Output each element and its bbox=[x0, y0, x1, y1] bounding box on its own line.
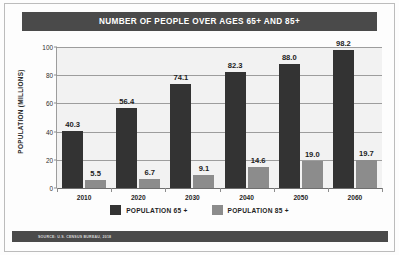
x-tick-label: 2050 bbox=[293, 194, 308, 201]
x-tick-label: 2040 bbox=[239, 194, 254, 201]
bar-group: 74.19.12030 bbox=[165, 47, 219, 188]
bar[interactable]: 6.7 bbox=[139, 179, 160, 188]
bar[interactable]: 14.6 bbox=[248, 167, 269, 188]
x-tick-mark bbox=[57, 188, 58, 192]
bar-group: 88.019.02050 bbox=[274, 47, 328, 188]
bar-value-label: 98.2 bbox=[336, 39, 351, 48]
bar[interactable]: 98.2 bbox=[333, 50, 354, 188]
y-tick-label: 40 bbox=[46, 128, 53, 135]
y-tick-label: 20 bbox=[46, 156, 53, 163]
x-tick-mark bbox=[382, 188, 383, 192]
legend-item[interactable]: POPULATION 65 + bbox=[110, 205, 187, 215]
chart-title-band: NUMBER OF PEOPLE OVER AGES 65+ AND 85+ bbox=[22, 12, 377, 31]
plot-area: 020406080100 40.35.5201056.46.7202074.19… bbox=[57, 47, 382, 188]
bar[interactable]: 9.1 bbox=[193, 175, 214, 188]
bar-group: 98.219.72060 bbox=[328, 47, 382, 188]
bar[interactable]: 19.0 bbox=[302, 161, 323, 188]
chart-title: NUMBER OF PEOPLE OVER AGES 65+ AND 85+ bbox=[99, 17, 300, 26]
y-tick-label: 0 bbox=[49, 185, 53, 192]
bar[interactable]: 74.1 bbox=[170, 84, 191, 188]
y-tick-label: 80 bbox=[46, 72, 53, 79]
bar-group-container: 40.35.5201056.46.7202074.19.1203082.314.… bbox=[57, 47, 382, 188]
source-band: SOURCE: U.S. CENSUS BUREAU, 2018 bbox=[12, 231, 388, 242]
source-note: SOURCE: U.S. CENSUS BUREAU, 2018 bbox=[38, 235, 111, 239]
bar-value-label: 19.7 bbox=[359, 149, 374, 158]
x-tick-label: 2010 bbox=[77, 194, 92, 201]
bar-value-label: 82.3 bbox=[228, 61, 243, 70]
legend-label: POPULATION 85 + bbox=[228, 207, 289, 214]
bar[interactable]: 5.5 bbox=[85, 180, 106, 188]
x-tick-label: 2030 bbox=[185, 194, 200, 201]
bar-value-label: 74.1 bbox=[174, 73, 189, 82]
chart-legend: POPULATION 65 +POPULATION 85 + bbox=[0, 205, 399, 215]
bar-value-label: 56.4 bbox=[119, 97, 134, 106]
legend-swatch bbox=[110, 205, 121, 215]
bar-value-label: 88.0 bbox=[282, 53, 297, 62]
bar[interactable]: 19.7 bbox=[356, 160, 377, 188]
y-tick-label: 100 bbox=[42, 44, 53, 51]
legend-label: POPULATION 65 + bbox=[126, 207, 187, 214]
bar-group: 82.314.62040 bbox=[220, 47, 274, 188]
bar[interactable]: 40.3 bbox=[62, 131, 83, 188]
y-axis-label: POPULATION (MILLIONS) bbox=[17, 57, 24, 167]
y-tick-label: 60 bbox=[46, 100, 53, 107]
x-tick-mark bbox=[220, 188, 221, 192]
bar-group: 40.35.52010 bbox=[57, 47, 111, 188]
bar-value-label: 40.3 bbox=[65, 120, 80, 129]
bar[interactable]: 82.3 bbox=[225, 72, 246, 188]
bar[interactable]: 88.0 bbox=[279, 64, 300, 188]
x-tick-label: 2060 bbox=[348, 194, 363, 201]
legend-swatch bbox=[212, 205, 223, 215]
bar-group: 56.46.72020 bbox=[111, 47, 165, 188]
legend-item[interactable]: POPULATION 85 + bbox=[212, 205, 289, 215]
bar-value-label: 5.5 bbox=[90, 169, 101, 178]
bar-value-label: 9.1 bbox=[199, 164, 210, 173]
bar[interactable]: 56.4 bbox=[116, 108, 137, 188]
x-tick-mark bbox=[165, 188, 166, 192]
bar-value-label: 19.0 bbox=[305, 150, 320, 159]
x-tick-mark bbox=[111, 188, 112, 192]
x-tick-mark bbox=[274, 188, 275, 192]
bar-value-label: 14.6 bbox=[251, 156, 266, 165]
x-tick-label: 2020 bbox=[131, 194, 146, 201]
chart-figure: NUMBER OF PEOPLE OVER AGES 65+ AND 85+ P… bbox=[0, 0, 399, 255]
bar-value-label: 6.7 bbox=[144, 168, 155, 177]
x-tick-mark bbox=[328, 188, 329, 192]
